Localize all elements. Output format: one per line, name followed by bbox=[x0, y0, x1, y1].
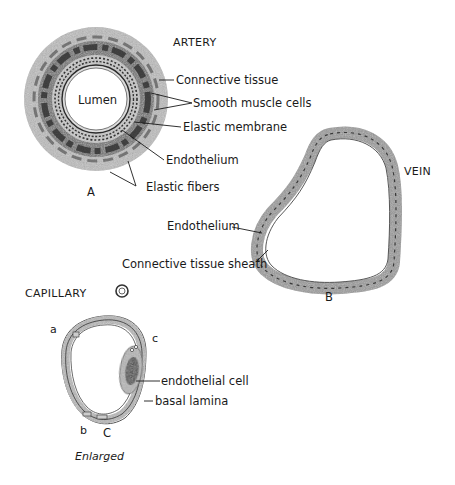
artery-cross-section: Lumen bbox=[24, 27, 168, 171]
capillary-marker-c: c bbox=[152, 332, 158, 345]
capillary-letter: C bbox=[103, 426, 111, 440]
label-endothelial-cell: endothelial cell bbox=[161, 374, 249, 388]
vessel-diagram: Lumen ARTERY A Connective tissue Smooth … bbox=[0, 0, 455, 485]
artery-letter: A bbox=[87, 185, 95, 199]
label-smooth-muscle: Smooth muscle cells bbox=[193, 96, 312, 110]
capillary-cross-section bbox=[62, 316, 146, 424]
label-connective-sheath: Connective tissue sheath bbox=[122, 257, 267, 271]
label-endothelium-vein: Endothelium bbox=[167, 219, 240, 233]
vein-title: VEIN bbox=[404, 165, 431, 178]
vein-endothelium bbox=[266, 139, 390, 283]
label-endothelium-artery: Endothelium bbox=[166, 153, 239, 167]
vein-cross-section bbox=[257, 132, 396, 288]
capillary-small-icon bbox=[116, 285, 128, 297]
vein-letter: B bbox=[325, 290, 333, 304]
lumen-label: Lumen bbox=[78, 93, 117, 107]
artery-title: ARTERY bbox=[173, 36, 217, 49]
label-elastic-membrane: Elastic membrane bbox=[183, 120, 287, 134]
capillary-title: CAPILLARY bbox=[25, 287, 86, 300]
capillary-marker-a: a bbox=[50, 323, 57, 336]
capillary-marker-b: b bbox=[80, 424, 87, 437]
capillary-caption: Enlarged bbox=[75, 450, 125, 463]
label-connective-tissue: Connective tissue bbox=[176, 73, 278, 87]
label-elastic-fibers: Elastic fibers bbox=[146, 180, 220, 194]
label-basal-lamina: basal lamina bbox=[155, 394, 228, 408]
